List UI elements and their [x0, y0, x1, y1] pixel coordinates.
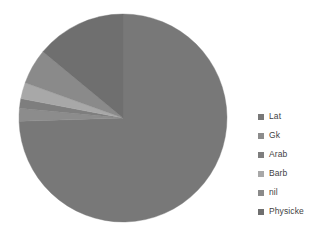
legend-item[interactable]: nil [258, 183, 322, 202]
chart-legend: Lat Gk Arab Barb nil Physicke [258, 107, 322, 221]
legend-swatch-icon [258, 209, 264, 215]
legend-swatch-icon [258, 133, 264, 139]
legend-item-label: Arab [269, 145, 287, 164]
pie-chart-plot-area [0, 0, 245, 233]
legend-swatch-icon [258, 114, 264, 120]
legend-item[interactable]: Gk [258, 126, 322, 145]
legend-item-label: Barb [269, 164, 287, 183]
legend-item-label: Gk [269, 126, 280, 145]
legend-item-label: Lat [269, 107, 281, 126]
legend-item-label: Physicke [269, 202, 304, 221]
legend-item[interactable]: Lat [258, 107, 322, 126]
pie-chart-screenshot: Lat Gk Arab Barb nil Physicke [0, 0, 325, 233]
legend-item-label: nil [269, 183, 278, 202]
pie-chart-svg [0, 0, 245, 233]
legend-swatch-icon [258, 152, 264, 158]
legend-item[interactable]: Barb [258, 164, 322, 183]
legend-item[interactable]: Physicke [258, 202, 322, 221]
legend-swatch-icon [258, 171, 264, 177]
legend-swatch-icon [258, 190, 264, 196]
legend-item[interactable]: Arab [258, 145, 322, 164]
